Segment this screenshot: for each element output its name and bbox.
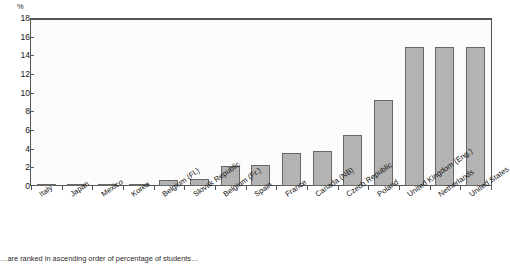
y-tick-mark xyxy=(30,74,34,75)
x-tick-mark xyxy=(215,186,216,190)
bar xyxy=(159,180,178,186)
bar xyxy=(251,165,270,186)
y-axis: 024681012141618 xyxy=(0,0,30,268)
bar xyxy=(37,184,56,186)
bar-slot xyxy=(435,19,454,186)
x-tick-mark xyxy=(491,186,492,190)
bar-slot xyxy=(221,19,240,186)
bar-slot xyxy=(466,19,485,186)
bar-slot xyxy=(313,19,332,186)
bar xyxy=(98,184,117,186)
bar xyxy=(67,184,86,186)
bar-slot xyxy=(405,19,424,186)
bar-slot xyxy=(98,19,117,186)
y-tick-label: 8 xyxy=(8,107,30,116)
y-tick-label: 4 xyxy=(8,145,30,154)
x-axis-category-label: Italy xyxy=(38,184,54,199)
x-tick-mark xyxy=(31,186,32,190)
bar xyxy=(405,47,424,186)
bar-slot xyxy=(159,19,178,186)
bar xyxy=(313,151,332,186)
y-tick-mark xyxy=(30,111,34,112)
y-tick-mark xyxy=(30,37,34,38)
chart-footnote: …are ranked in ascending order of percen… xyxy=(0,254,320,263)
bar xyxy=(374,100,393,186)
x-tick-mark xyxy=(184,186,185,190)
bar xyxy=(282,153,301,186)
bar-slot xyxy=(67,19,86,186)
y-tick-label: 6 xyxy=(8,126,30,135)
x-tick-mark xyxy=(460,186,461,190)
y-tick-label: 12 xyxy=(8,70,30,79)
y-tick-label: 16 xyxy=(8,33,30,42)
x-tick-mark xyxy=(62,186,63,190)
y-tick-label: 18 xyxy=(8,14,30,23)
y-tick-label: 14 xyxy=(8,51,30,60)
bar-slot xyxy=(374,19,393,186)
y-tick-label: 2 xyxy=(8,163,30,172)
x-tick-mark xyxy=(399,186,400,190)
x-tick-mark xyxy=(430,186,431,190)
x-tick-mark xyxy=(338,186,339,190)
x-tick-mark xyxy=(123,186,124,190)
y-tick-mark xyxy=(30,93,34,94)
y-tick-label: 0 xyxy=(8,182,30,191)
bar xyxy=(129,184,148,186)
y-tick-mark xyxy=(30,130,34,131)
x-tick-mark xyxy=(246,186,247,190)
bar-slot xyxy=(343,19,362,186)
y-tick-mark xyxy=(30,55,34,56)
bar-slot xyxy=(190,19,209,186)
x-tick-mark xyxy=(307,186,308,190)
bar xyxy=(190,179,209,186)
bar-slot xyxy=(282,19,301,186)
bar xyxy=(343,135,362,186)
bar xyxy=(435,47,454,186)
y-tick-mark xyxy=(30,149,34,150)
y-tick-mark xyxy=(30,167,34,168)
bar xyxy=(466,47,485,186)
x-tick-mark xyxy=(368,186,369,190)
bar xyxy=(221,166,240,186)
x-tick-mark xyxy=(276,186,277,190)
x-tick-mark xyxy=(92,186,93,190)
x-tick-mark xyxy=(154,186,155,190)
bar-slot xyxy=(37,19,56,186)
y-tick-label: 10 xyxy=(8,89,30,98)
bar-slot xyxy=(129,19,148,186)
bar-slot xyxy=(251,19,270,186)
bars-container xyxy=(31,19,491,186)
